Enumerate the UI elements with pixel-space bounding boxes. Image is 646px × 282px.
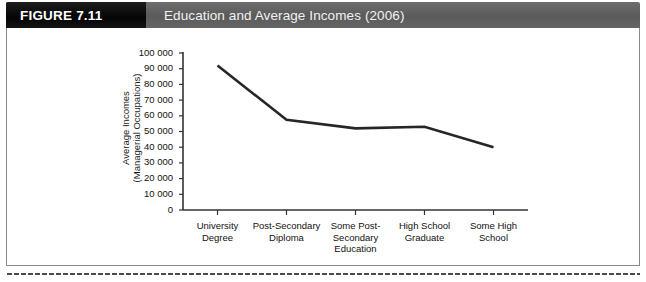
figure-title: Education and Average Incomes (2006) (146, 2, 405, 28)
figure-body-panel (6, 28, 640, 266)
dotted-divider (6, 272, 640, 276)
figure-header: FIGURE 7.11 Education and Average Income… (6, 2, 640, 28)
figure-number-tag: FIGURE 7.11 (6, 2, 146, 28)
figure-container: FIGURE 7.11 Education and Average Income… (0, 0, 646, 282)
